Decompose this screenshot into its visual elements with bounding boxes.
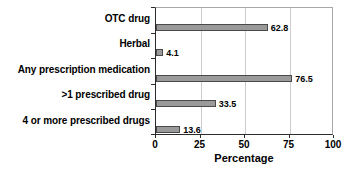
category-label: 4 or more prescribed drugs: [0, 115, 150, 126]
value-tick-label: 0: [152, 139, 158, 150]
bar-row: 76.5: [156, 59, 332, 85]
category-axis-labels: OTC drugHerbalAny prescription medicatio…: [0, 7, 150, 135]
category-tick-mark: [151, 7, 155, 8]
category-axis-tick-marks: [151, 7, 156, 135]
bar-value-label: 4.1: [166, 48, 179, 58]
value-tick-mark: [155, 135, 156, 138]
category-label: Any prescription medication: [0, 64, 150, 75]
bar-value-label: 76.5: [295, 74, 313, 84]
category-tick-mark: [151, 58, 155, 59]
value-tick-mark: [200, 135, 201, 138]
value-tick-label: 100: [325, 139, 342, 150]
bar-value-label: 33.5: [219, 99, 237, 109]
bar-row: 33.5: [156, 85, 332, 111]
category-label: OTC drug: [0, 13, 150, 24]
value-axis-ticks: 0255075100: [155, 135, 333, 153]
bar-row: 13.6: [156, 110, 332, 136]
bar-value-label: 62.8: [271, 23, 289, 33]
bar: [156, 24, 268, 31]
category-label: Herbal: [0, 38, 150, 49]
category-tick-mark: [151, 33, 155, 34]
bar-row: 62.8: [156, 8, 332, 34]
bar-series: 62.84.176.533.513.6: [156, 8, 332, 134]
bar: [156, 75, 292, 82]
value-tick-label: 75: [283, 139, 294, 150]
value-tick-mark: [289, 135, 290, 138]
value-tick-label: 25: [194, 139, 205, 150]
category-tick-mark: [151, 84, 155, 85]
bar: [156, 49, 163, 56]
value-tick-label: 50: [238, 139, 249, 150]
x-axis-title: Percentage: [155, 152, 333, 164]
bar-row: 4.1: [156, 34, 332, 60]
value-tick-mark: [244, 135, 245, 138]
bar-chart-figure: OTC drugHerbalAny prescription medicatio…: [0, 0, 358, 178]
plot-area: 62.84.176.533.513.6: [155, 7, 333, 135]
bar: [156, 126, 180, 133]
bar-value-label: 13.6: [183, 125, 201, 135]
bar: [156, 100, 216, 107]
value-tick-mark: [333, 135, 334, 138]
category-label: >1 prescribed drug: [0, 89, 150, 100]
category-tick-mark: [151, 109, 155, 110]
